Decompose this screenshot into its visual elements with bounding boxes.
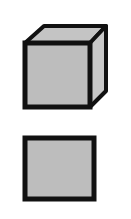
square-face: [25, 138, 94, 199]
diagram-canvas: [0, 0, 131, 219]
square-shape: [25, 138, 94, 199]
cube-front-face: [25, 43, 90, 107]
cube-shape: [25, 26, 106, 107]
